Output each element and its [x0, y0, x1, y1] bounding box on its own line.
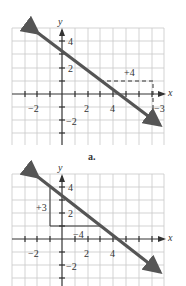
graph-b-tick-y4: 4	[68, 183, 73, 193]
graph-a-tick-y4: 4	[68, 37, 73, 47]
graph-b-tick-x4: 4	[110, 249, 115, 259]
graph-b-rise-label: +3	[36, 203, 47, 213]
graph-b-tick-xneg2: −2	[28, 249, 39, 259]
graph-b-tick-yneg2: −2	[66, 262, 77, 272]
graph-a-run-label: +4	[124, 68, 135, 78]
graph-a-caption: a.	[88, 152, 96, 162]
graph-b-run-label: −4	[73, 230, 84, 240]
graph-a-grid	[12, 28, 164, 145]
graph-a-rise-label: −3	[154, 104, 165, 114]
graph-b	[12, 174, 164, 286]
graph-a-tick-xneg2: −2	[28, 104, 39, 114]
graph-a-y-label: y	[58, 17, 62, 27]
graph-a	[12, 28, 164, 145]
graph-b-tick-x2: 2	[84, 249, 89, 259]
graph-a-x-label: x	[168, 88, 172, 98]
graph-a-tick-y2: 2	[68, 64, 73, 74]
graph-b-tick-y2: 2	[68, 209, 73, 219]
graph-a-line	[38, 33, 160, 125]
graph-b-x-label: x	[168, 233, 172, 243]
graph-a-tick-x2: 2	[84, 104, 89, 114]
graph-b-grid	[12, 174, 164, 286]
graph-b-y-label: y	[58, 163, 62, 173]
graph-a-tick-x4: 4	[110, 104, 115, 114]
graph-b-line	[38, 177, 160, 272]
figure-svg	[0, 0, 186, 286]
graph-a-tick-yneg2: −2	[66, 117, 77, 127]
